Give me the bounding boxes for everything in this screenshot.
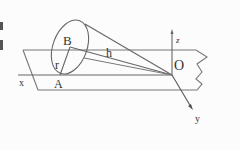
label-x: x [19, 77, 24, 88]
margin-text-fragment [0, 22, 3, 30]
label-z: z [175, 35, 180, 45]
radius-r [60, 47, 70, 75]
label-r: r [55, 58, 59, 72]
label-B: B [63, 33, 72, 48]
cone-generator-lower [84, 58, 172, 75]
cone-diagram: B h r A O x y z [0, 0, 240, 150]
z-axis-arrow-icon [171, 29, 174, 34]
diagram-canvas: B h r A O x y z [0, 0, 240, 150]
label-h: h [106, 46, 112, 60]
label-y: y [195, 113, 200, 124]
label-O: O [174, 58, 184, 73]
cone-height-h [70, 47, 172, 75]
margin-text-fragment [0, 40, 3, 50]
y-axis [172, 75, 191, 107]
y-axis-arrow-icon [188, 104, 193, 110]
label-A: A [54, 77, 63, 91]
